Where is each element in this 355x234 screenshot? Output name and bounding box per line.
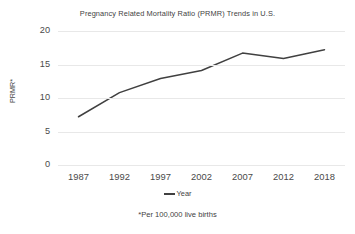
legend-line-icon bbox=[164, 193, 175, 195]
legend-item-year: Year bbox=[177, 190, 192, 197]
x-tick-label: 2012 bbox=[273, 171, 294, 182]
y-tick-label: 20 bbox=[40, 26, 50, 35]
plot-area bbox=[58, 31, 345, 165]
y-tick-label: 15 bbox=[40, 60, 50, 69]
y-axis-title: PRMR* bbox=[8, 79, 17, 103]
gridline bbox=[58, 132, 345, 133]
x-tick-label: 2018 bbox=[314, 171, 335, 182]
chart-container: Pregnancy Related Mortality Ratio (PRMR)… bbox=[0, 0, 355, 234]
gridline bbox=[58, 65, 345, 66]
x-tick-label: 1987 bbox=[68, 171, 89, 182]
x-tick-label: 1992 bbox=[109, 171, 130, 182]
y-tick-label: 0 bbox=[45, 160, 50, 169]
chart-legend: Year bbox=[0, 190, 355, 197]
chart-footnote: *Per 100,000 live births bbox=[0, 210, 355, 219]
gridline bbox=[58, 98, 345, 99]
x-tick-label: 2002 bbox=[191, 171, 212, 182]
y-axis: PRMR* 05101520 bbox=[0, 0, 58, 234]
gridline bbox=[58, 165, 345, 166]
x-tick-label: 2007 bbox=[232, 171, 253, 182]
y-tick-label: 10 bbox=[40, 93, 50, 102]
x-axis: 1987199219972002200720122018 bbox=[58, 171, 345, 187]
x-tick-label: 1997 bbox=[150, 171, 171, 182]
y-tick-label: 5 bbox=[45, 127, 50, 136]
gridline bbox=[58, 31, 345, 32]
